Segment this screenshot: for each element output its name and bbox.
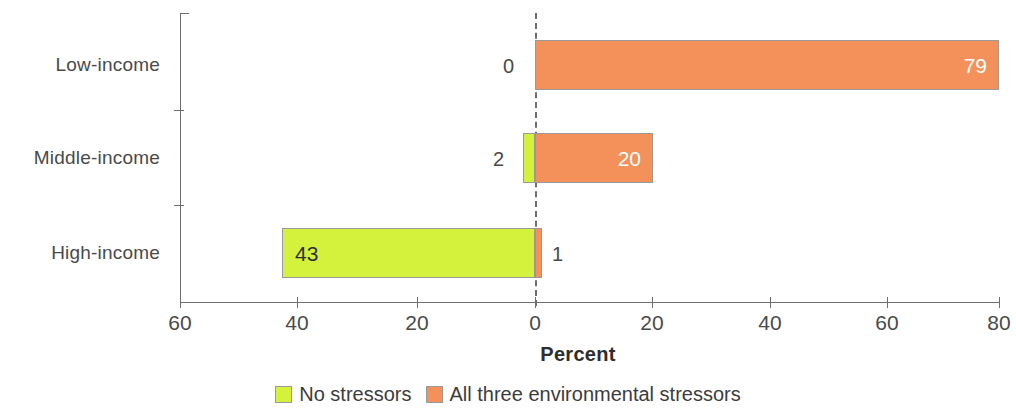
- x-axis-tick-60-left: [180, 297, 181, 308]
- x-axis-tick-40-left: [297, 297, 298, 308]
- x-axis-tick-0: [535, 297, 536, 308]
- bar-value-high-income-all-three: 1: [552, 243, 563, 266]
- diverging-bar-chart: Low-income Middle-income High-income 79 …: [0, 0, 1016, 409]
- bar-value-low-income-all-three: 79: [899, 54, 987, 78]
- bar-value-middle-income-all-three: 20: [553, 147, 641, 171]
- x-axis-tick-20-right: [652, 297, 653, 308]
- x-axis-tick-label-60-right: 60: [857, 311, 917, 335]
- bar-value-middle-income-no-stressors: 2: [493, 148, 504, 171]
- x-axis-tick-20-left: [417, 297, 418, 308]
- bar-middle-income-no-stressors: [523, 133, 535, 183]
- y-axis-separator-tick-2: [174, 205, 184, 206]
- x-axis-tick-label-80-right: 80: [969, 311, 1016, 335]
- x-axis-tick-label-40-right: 40: [740, 311, 800, 335]
- legend-swatch-green-icon: [275, 386, 292, 403]
- legend-label-no-stressors: No stressors: [299, 383, 411, 406]
- x-axis-line: [180, 302, 1000, 303]
- category-label-low-income: Low-income: [0, 54, 160, 76]
- x-axis-tick-label-0: 0: [505, 311, 565, 335]
- legend-swatch-orange-icon: [426, 386, 443, 403]
- bar-high-income-no-stressors: [282, 228, 535, 278]
- bar-high-income-all-three: [535, 228, 542, 278]
- legend-item-all-three: All three environmental stressors: [426, 383, 741, 406]
- x-axis-tick-60-right: [887, 297, 888, 308]
- chart-legend: No stressors All three environmental str…: [0, 383, 1016, 406]
- x-axis-title: Percent: [0, 343, 1016, 366]
- x-axis-tick-label-40-left: 40: [267, 311, 327, 335]
- x-axis-tick-80-right: [999, 297, 1000, 308]
- x-axis-tick-40-right: [770, 297, 771, 308]
- x-axis-tick-label-60-left: 60: [150, 311, 210, 335]
- legend-item-no-stressors: No stressors: [275, 383, 411, 406]
- y-axis-top-cap: [180, 13, 189, 14]
- category-label-high-income: High-income: [0, 242, 160, 264]
- bar-value-high-income-no-stressors: 43: [295, 242, 318, 266]
- x-axis-title-text: Percent: [540, 343, 615, 365]
- category-label-middle-income: Middle-income: [0, 147, 160, 169]
- x-axis-tick-label-20-left: 20: [387, 311, 447, 335]
- y-axis-separator-tick-1: [174, 110, 184, 111]
- legend-label-all-three: All three environmental stressors: [450, 383, 741, 406]
- x-axis-tick-label-20-right: 20: [622, 311, 682, 335]
- y-axis-spine: [180, 13, 181, 303]
- bar-value-low-income-no-stressors: 0: [503, 55, 514, 78]
